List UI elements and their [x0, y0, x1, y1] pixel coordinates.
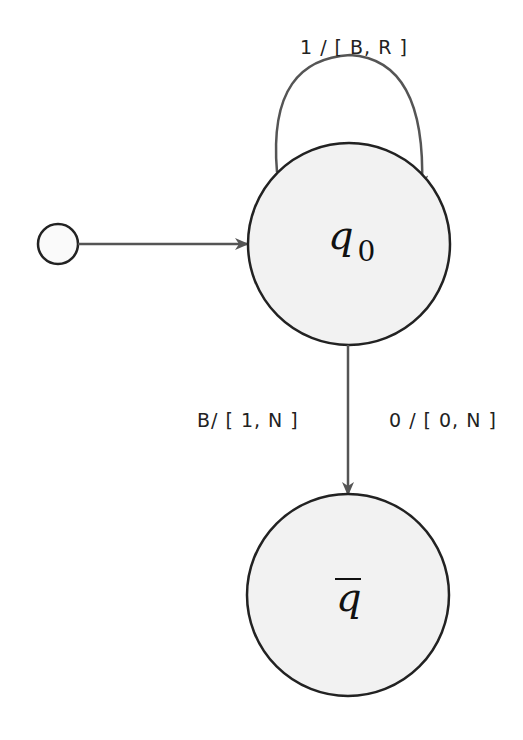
state-diagram: 1 / [ B, R ] B/ [ 1, N ] 0 / [ 0, N ] q0…	[0, 0, 523, 740]
transition-label-blank: B/ [ 1, N ]	[197, 409, 299, 431]
transition-label-zero: 0 / [ 0, N ]	[389, 409, 497, 431]
state-q0-name: q	[328, 212, 354, 258]
initial-state-marker	[38, 224, 78, 264]
diagram-graphics	[0, 0, 523, 740]
state-q0-subscript: 0	[358, 235, 376, 268]
self-loop-label: 1 / [ B, R ]	[300, 36, 408, 58]
state-q0-label: q0	[328, 212, 375, 258]
state-qbar-label: q	[336, 574, 362, 620]
